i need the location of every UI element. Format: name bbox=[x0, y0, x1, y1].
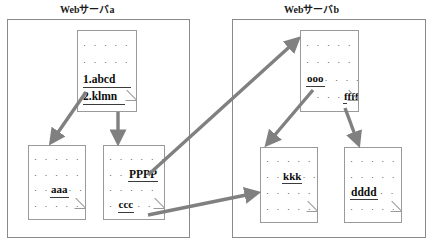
dot-prefix: · bbox=[109, 202, 115, 211]
document-row: · · · · · · · bbox=[350, 156, 396, 168]
document-dddd[interactable]: · · · · · · · · · · · · · · dddd · · · ·… bbox=[344, 147, 402, 223]
document-kkk[interactable]: · · · · · · · · · kkk · · · · · · · · · … bbox=[260, 147, 318, 223]
dot-row: · · · · · · · bbox=[34, 155, 86, 164]
dot-row: · · · · · · · bbox=[266, 157, 318, 166]
document-body: · · · · · · · · · · · · · · ooo · · · · … bbox=[301, 31, 358, 111]
document-row: 1.abcd bbox=[83, 74, 131, 86]
document-row: · · · · ffff bbox=[306, 91, 353, 103]
keyword-ccc: ccc bbox=[118, 199, 135, 213]
dot-suffix: · · bbox=[137, 202, 153, 211]
document-row: · ccc · · bbox=[109, 200, 159, 212]
document-body: · · · · · · · · · · · · · · 1.abcd 2.klm… bbox=[78, 31, 136, 111]
diagram-canvas: Webサーバa Webサーバb · · · · · · · · · · · · … bbox=[0, 0, 434, 245]
keyword-ooo: ooo bbox=[306, 73, 325, 87]
keyword-pppp: PPPP bbox=[128, 168, 158, 182]
document-row: · · · · · · · bbox=[83, 40, 131, 52]
dot-prefix: · · · · bbox=[306, 93, 343, 102]
keyword-kkk: kkk bbox=[282, 171, 302, 185]
panel-title-server-a: Webサーバa bbox=[60, 1, 114, 16]
dot-row: · · · · · · · bbox=[306, 41, 359, 50]
document-row: · · · · · · · bbox=[266, 156, 312, 168]
keyword-aaa: aaa bbox=[50, 184, 69, 198]
document-row: · · · · · · · bbox=[34, 169, 80, 181]
dot-row: · · · · · · bbox=[109, 155, 165, 164]
dot-suffix: · · · · bbox=[325, 76, 360, 85]
document-row: ooo · · · · bbox=[306, 74, 353, 86]
dot-row: · · · · · · · bbox=[34, 171, 86, 180]
page-fold-corner bbox=[347, 100, 359, 112]
list-entry: 2.klmn bbox=[83, 90, 131, 105]
dot-row: · · · · · bbox=[109, 186, 156, 195]
dot-prefix: · · bbox=[266, 173, 282, 182]
dot-row: · · · · · · · bbox=[350, 157, 402, 166]
dot-suffix: · · bbox=[69, 186, 85, 195]
document-row: · · kkk · · bbox=[266, 172, 312, 184]
keyword-dddd: dddd bbox=[350, 186, 378, 200]
document-row: · · · · · · bbox=[109, 154, 159, 166]
dot-suffix: · · bbox=[380, 189, 396, 198]
document-row: · · · · · · · bbox=[350, 172, 396, 184]
document-row: · · aaa · · bbox=[34, 185, 80, 197]
page-fold-corner bbox=[125, 100, 137, 112]
dot-row: · · · · · · · bbox=[83, 41, 137, 50]
document-row: dddd · · bbox=[350, 187, 396, 199]
document-aaa[interactable]: · · · · · · · · · · · · · · · · aaa · · … bbox=[28, 145, 86, 220]
document-ooo-ffff[interactable]: · · · · · · · · · · · · · · ooo · · · · … bbox=[300, 30, 359, 112]
page-fold-corner bbox=[74, 208, 86, 220]
document-row: 2.klmn bbox=[83, 91, 131, 103]
dot-prefix: · · bbox=[34, 186, 50, 195]
dot-row: · · · · · · · bbox=[266, 189, 318, 198]
document-pppp-ccc[interactable]: · · · · · · · · PPPP · · · · · · ccc · · bbox=[103, 145, 165, 220]
page-fold-corner bbox=[306, 211, 318, 223]
document-row: · · PPPP bbox=[109, 169, 159, 181]
page-fold-corner bbox=[153, 208, 165, 220]
document-row: · · · · · · · bbox=[34, 154, 80, 166]
document-abcd-klmn[interactable]: · · · · · · · · · · · · · · 1.abcd 2.klm… bbox=[77, 30, 137, 112]
dot-row: · · · · · · · bbox=[306, 58, 359, 67]
dot-row: · · · · · · · bbox=[83, 58, 137, 67]
document-row: · · · · · · · bbox=[306, 40, 353, 52]
document-row: · · · · · · · bbox=[306, 57, 353, 69]
document-row: · · · · · bbox=[109, 185, 159, 197]
dot-row: · · · · · · · bbox=[350, 173, 402, 182]
list-entry: 1.abcd bbox=[83, 73, 131, 88]
page-fold-corner bbox=[390, 211, 402, 223]
document-row: · · · · · · · bbox=[266, 187, 312, 199]
document-row: · · · · · · · bbox=[83, 57, 131, 69]
dot-prefix: · · bbox=[109, 171, 125, 180]
dot-suffix: · · bbox=[302, 173, 318, 182]
panel-title-server-b: Webサーバb bbox=[284, 1, 339, 16]
